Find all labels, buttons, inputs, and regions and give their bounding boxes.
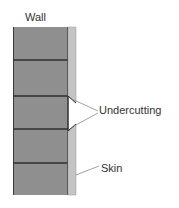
skin-label: Skin [101,162,122,174]
wall-diagram: Wall Undercutting Skin [0,0,179,208]
wall-body [13,27,68,195]
undercutting-callout [74,100,98,126]
skin-lower [68,124,76,195]
skin-upper [68,27,76,103]
wall-label: Wall [25,11,46,23]
undercutting-label: Undercutting [99,104,161,116]
skin-callout [76,166,99,175]
